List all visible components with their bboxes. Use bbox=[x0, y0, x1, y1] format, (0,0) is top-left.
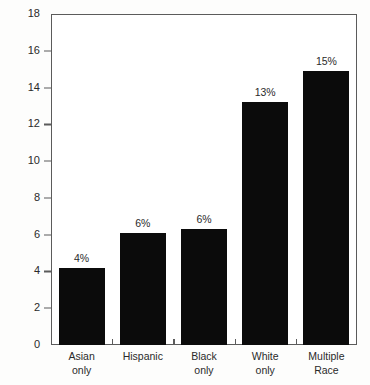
x-axis-tick-mark bbox=[296, 339, 297, 345]
x-axis-category-line: Race bbox=[286, 364, 366, 378]
y-axis-tick: 2 bbox=[0, 308, 51, 309]
y-axis-tick: 8 bbox=[0, 197, 51, 198]
y-axis-tick: 14 bbox=[0, 87, 51, 88]
y-axis-tick-label: 0 bbox=[34, 337, 40, 352]
plot-area: 024681012141618 4%6%6%13%15% bbox=[51, 14, 357, 345]
x-axis-tick-mark bbox=[173, 339, 174, 345]
y-axis-tick: 0 bbox=[0, 345, 51, 346]
y-axis-tick: 10 bbox=[0, 161, 51, 162]
bar bbox=[303, 71, 349, 345]
y-axis-tick-mark bbox=[44, 197, 51, 198]
y-axis-tick-label: 12 bbox=[28, 116, 40, 131]
y-axis-tick-label: 2 bbox=[34, 300, 40, 315]
y-axis-tick-mark bbox=[44, 308, 51, 309]
x-axis-tick-mark bbox=[235, 339, 236, 345]
bar-value-label: 13% bbox=[235, 86, 295, 99]
bar-value-label: 4% bbox=[52, 252, 112, 265]
y-axis-tick-mark bbox=[44, 234, 51, 235]
y-axis-tick-label: 14 bbox=[28, 79, 40, 94]
y-axis-tick-label: 16 bbox=[28, 42, 40, 57]
y-axis-tick-mark bbox=[44, 124, 51, 125]
bar bbox=[59, 268, 105, 345]
y-axis-tick-mark bbox=[44, 87, 51, 88]
bar bbox=[120, 233, 166, 345]
y-axis-tick: 4 bbox=[0, 271, 51, 272]
bar bbox=[242, 102, 288, 345]
y-axis-tick-mark bbox=[44, 50, 51, 51]
y-axis-tick-label: 8 bbox=[34, 189, 40, 204]
y-axis-tick-label: 10 bbox=[28, 153, 40, 168]
x-axis-tick-mark bbox=[112, 339, 113, 345]
y-axis-tick: 6 bbox=[0, 234, 51, 235]
y-axis-tick: 16 bbox=[0, 50, 51, 51]
x-axis-category-label: MultipleRace bbox=[286, 350, 366, 377]
y-axis-title: Percent aged 18–66 with hearing loss bbox=[0, 0, 18, 42]
bar-value-label: 6% bbox=[113, 217, 173, 230]
x-axis-category-line: Multiple bbox=[286, 350, 366, 364]
y-axis-tick-label: 6 bbox=[34, 226, 40, 241]
bar bbox=[181, 229, 227, 345]
y-axis-tick: 18 bbox=[0, 14, 51, 15]
y-axis-tick: 12 bbox=[0, 124, 51, 125]
x-axis-category-line: only bbox=[42, 364, 122, 378]
y-axis-tick-mark bbox=[44, 271, 51, 272]
bar-value-label: 6% bbox=[174, 213, 234, 226]
y-axis-tick-mark bbox=[44, 161, 51, 162]
y-axis-tick-label: 4 bbox=[34, 263, 40, 278]
bar-value-label: 15% bbox=[296, 55, 356, 68]
bar-chart-figure: Percent aged 18–66 with hearing loss 024… bbox=[0, 0, 370, 385]
y-axis-tick-label: 18 bbox=[28, 6, 40, 21]
